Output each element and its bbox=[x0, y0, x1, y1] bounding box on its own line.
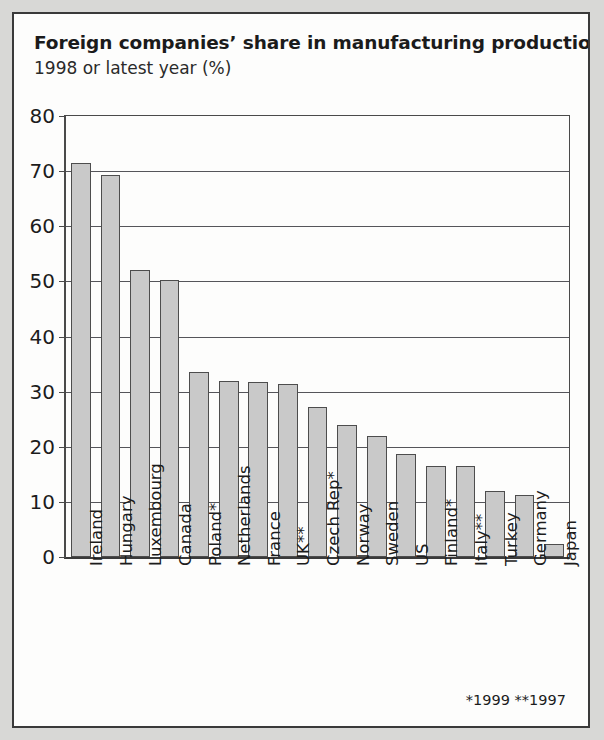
x-axis-label: Netherlands bbox=[235, 465, 254, 566]
x-axis-label: Norway bbox=[354, 503, 373, 566]
y-axis-label: 50 bbox=[30, 269, 55, 293]
y-axis-tick bbox=[59, 557, 66, 558]
x-axis-label: Germany bbox=[531, 490, 550, 566]
x-axis-label: Czech Rep* bbox=[324, 471, 343, 566]
x-axis-label: Poland* bbox=[206, 503, 225, 566]
x-axis-label: Ireland bbox=[87, 509, 106, 566]
gridline bbox=[66, 171, 569, 172]
y-axis-label: 20 bbox=[30, 435, 55, 459]
x-axis-label: Turkey bbox=[502, 512, 521, 566]
chart-figure: Foreign companies’ share in manufacturin… bbox=[12, 12, 590, 728]
x-axis-label: Luxembourg bbox=[146, 463, 165, 566]
x-axis-label: UK** bbox=[294, 527, 313, 566]
chart-title: Foreign companies’ share in manufacturin… bbox=[34, 32, 590, 53]
y-axis-tick bbox=[59, 171, 66, 172]
y-axis-tick bbox=[59, 447, 66, 448]
x-axis-label: Italy** bbox=[472, 514, 491, 566]
x-axis-label: Japan bbox=[561, 520, 580, 566]
y-axis-label: 70 bbox=[30, 159, 55, 183]
x-axis-label: Hungary bbox=[117, 496, 136, 566]
y-axis-tick bbox=[59, 392, 66, 393]
x-axis-label: France bbox=[265, 511, 284, 566]
plot-area: 01020304050607080 IrelandHungaryLuxembou… bbox=[64, 115, 570, 559]
y-axis-tick bbox=[59, 226, 66, 227]
y-axis-label: 30 bbox=[30, 380, 55, 404]
y-axis-tick bbox=[59, 337, 66, 338]
y-axis-label: 80 bbox=[30, 104, 55, 128]
y-axis-tick bbox=[59, 502, 66, 503]
y-axis-label: 0 bbox=[42, 545, 55, 569]
y-axis-tick bbox=[59, 281, 66, 282]
x-axis-label: Sweden bbox=[383, 501, 402, 566]
chart-footnote: *1999 **1997 bbox=[466, 692, 566, 708]
x-axis-label: Finland* bbox=[442, 499, 461, 566]
gridline bbox=[66, 226, 569, 227]
x-axis-label: US bbox=[413, 543, 432, 566]
y-axis-label: 40 bbox=[30, 325, 55, 349]
chart-subtitle: 1998 or latest year (%) bbox=[34, 58, 231, 78]
x-axis-label: Canada bbox=[176, 503, 195, 566]
y-axis-label: 10 bbox=[30, 490, 55, 514]
bar bbox=[71, 163, 91, 557]
y-axis-tick bbox=[59, 116, 66, 117]
y-axis-label: 60 bbox=[30, 214, 55, 238]
